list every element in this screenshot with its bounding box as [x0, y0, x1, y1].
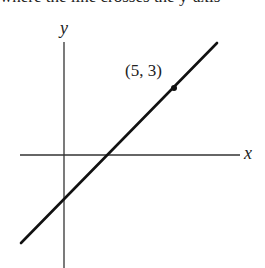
- point-label: (5, 3): [125, 61, 162, 81]
- coordinate-graph: [0, 0, 265, 268]
- graph-line: [21, 43, 217, 243]
- y-axis-label: y: [60, 18, 68, 39]
- x-axis-label: x: [244, 143, 252, 164]
- point-marker: [171, 85, 177, 91]
